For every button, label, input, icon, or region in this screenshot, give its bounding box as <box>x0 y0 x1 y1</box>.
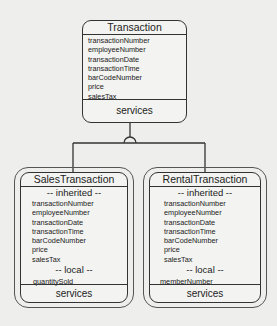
attribute: barCodeNumber <box>32 236 94 245</box>
attribute: barCodeNumber <box>88 73 150 82</box>
attribute: transactionNumber <box>88 36 150 45</box>
attribute: transactionDate <box>88 55 150 64</box>
inherited-label: -- inherited -- <box>150 187 260 198</box>
attribute: salesTax <box>32 255 94 264</box>
attribute: salesTax <box>164 255 226 264</box>
attribute: barCodeNumber <box>164 236 226 245</box>
divider <box>21 284 127 285</box>
inherited-attribute-list: transactionNumber employeeNumber transac… <box>32 199 94 264</box>
attribute: transactionDate <box>164 218 226 227</box>
services-label: services <box>150 288 260 299</box>
attribute: price <box>32 245 94 254</box>
attribute: employeeNumber <box>164 208 226 217</box>
attribute: employeeNumber <box>88 45 150 54</box>
inherited-label: -- inherited -- <box>21 187 127 198</box>
attribute: transactionNumber <box>32 199 94 208</box>
local-label: -- local -- <box>21 264 127 275</box>
attribute: transactionNumber <box>164 199 226 208</box>
attribute-list: transactionNumber employeeNumber transac… <box>88 36 150 101</box>
attribute: transactionTime <box>164 227 226 236</box>
services-label: services <box>83 105 186 116</box>
inherited-attribute-list: transactionNumber employeeNumber transac… <box>164 199 226 264</box>
attribute: transactionTime <box>88 64 150 73</box>
attribute: price <box>164 245 226 254</box>
attribute: transactionDate <box>32 218 94 227</box>
class-rental-transaction[interactable]: RentalTransaction -- inherited -- transa… <box>149 172 261 303</box>
attribute: price <box>88 82 150 91</box>
class-title: SalesTransaction <box>21 173 127 185</box>
divider <box>83 99 186 100</box>
class-title: Transaction <box>83 21 186 33</box>
local-label: -- local -- <box>150 264 260 275</box>
class-title: RentalTransaction <box>150 173 260 185</box>
class-transaction[interactable]: Transaction transactionNumber employeeNu… <box>82 20 187 123</box>
attribute: employeeNumber <box>32 208 94 217</box>
services-label: services <box>21 288 127 299</box>
divider <box>83 34 186 35</box>
divider <box>150 284 260 285</box>
class-sales-transaction[interactable]: SalesTransaction -- inherited -- transac… <box>20 172 128 303</box>
attribute: transactionTime <box>32 227 94 236</box>
